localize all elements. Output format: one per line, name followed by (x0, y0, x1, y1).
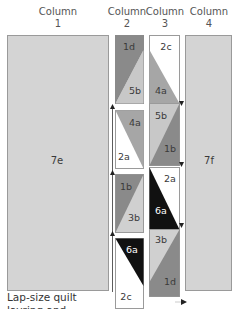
piece-label-7e: 7e (51, 155, 64, 166)
column-3-block-1: 2c 4a (150, 36, 180, 104)
piece-label: 3b (128, 212, 140, 223)
column-3-block-2: 5b 1b (150, 104, 180, 166)
right-arrow-icon (181, 299, 187, 305)
column-3-block-3: 2a 6a (150, 168, 180, 230)
piece-label: 2c (160, 41, 171, 52)
piece-label: 4a (129, 117, 141, 128)
piece-label: 6a (155, 205, 167, 216)
up-arrow-icon (110, 170, 115, 175)
column-2-block-3: 1b 3b (116, 175, 144, 233)
column-2-direction-line (110, 104, 115, 292)
piece-label: 4a (155, 85, 167, 96)
piece-label: 3b (155, 234, 167, 245)
column-2-block-2: 4a 2a (116, 111, 144, 169)
column-2-block-1: 1d 5b (116, 36, 144, 104)
piece-label: 6a (126, 244, 138, 255)
piece-label: 5b (155, 110, 167, 121)
piece-label-7f: 7f (204, 155, 214, 166)
column-2-block-4: 6a 2c (116, 239, 144, 309)
up-arrow-icon (110, 104, 115, 109)
piece-label: 1d (164, 276, 176, 287)
piece-label: 5b (129, 85, 141, 96)
piece-label: 2a (118, 151, 130, 162)
piece-label: 1b (164, 143, 176, 154)
column-4-panel: 7f (186, 36, 232, 291)
column-3-block-4: 3b 1d (150, 230, 180, 297)
column-1-panel: 7e (8, 36, 109, 291)
piece-label: 2a (164, 173, 176, 184)
up-arrow-icon (110, 231, 115, 236)
figure-caption: Lap-size quilt layring and ... (7, 291, 80, 309)
piece-label: 2c (120, 291, 131, 302)
caption-line-2: layring and ... (7, 304, 80, 309)
quilt-layout-diagram: 7e 1d 5b 4a 2a 1b 3b 6a 2c 2c 4a (0, 0, 244, 309)
caption-line-1: Lap-size quilt (7, 291, 80, 304)
piece-label: 1b (120, 181, 132, 192)
piece-label: 1d (123, 41, 135, 52)
